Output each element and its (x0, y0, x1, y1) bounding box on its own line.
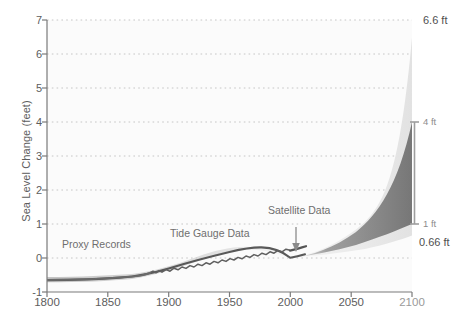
sea-level-change-chart: Sea Level Change (feet) 7 6 5 4 3 2 1 0 … (0, 0, 470, 322)
y-axis-ticks (42, 20, 47, 292)
annotation-tide-gauge-data: Tide Gauge Data (170, 227, 250, 239)
annotation-proxy-records: Proxy Records (62, 238, 131, 250)
endpoint-label-high: 6.6 ft (423, 14, 447, 26)
annotation-satellite-data: Satellite Data (268, 204, 330, 216)
plot-area (0, 0, 470, 322)
endpoint-label-low: 0.66 ft (419, 236, 450, 248)
x-axis-ticks (47, 292, 412, 297)
endpoint-label-1ft: 1 ft (423, 218, 436, 229)
endpoint-label-4ft: 4 ft (423, 116, 436, 127)
